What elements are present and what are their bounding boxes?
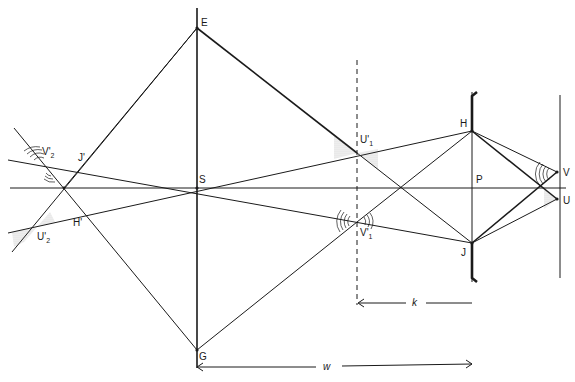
- label-u: U: [563, 195, 570, 206]
- line-v1-h: [357, 131, 472, 222]
- label-k: k: [412, 297, 418, 308]
- point-s: [195, 186, 198, 189]
- line-e-h: [197, 28, 357, 153]
- label-g: G: [199, 351, 207, 362]
- point-j: [470, 241, 473, 244]
- lens-lower-segment: [472, 243, 477, 282]
- line-g-v1: [197, 222, 357, 350]
- line-left-diagonal-b: [12, 28, 197, 252]
- point-h: [470, 129, 473, 132]
- arcs-v: [535, 162, 549, 186]
- stipple-u1-right: [357, 149, 378, 170]
- label-s: S: [199, 174, 206, 185]
- label-v1-prime: V'1: [360, 227, 373, 240]
- lens-upper-segment: [472, 92, 477, 131]
- label-u1-prime: U'1: [360, 134, 373, 147]
- label-h-prime: H': [73, 217, 82, 228]
- dimension-w: [197, 360, 472, 371]
- label-h: H: [460, 118, 467, 129]
- label-j: J: [461, 247, 466, 258]
- label-v: V: [563, 167, 570, 178]
- label-w: w: [323, 361, 331, 372]
- label-e: E: [201, 17, 208, 28]
- label-v2-prime: V'2: [42, 146, 55, 159]
- point-left-cross: [63, 187, 66, 190]
- stipple-u2-left: [12, 227, 37, 247]
- point-e: [195, 26, 198, 29]
- label-p: P: [476, 174, 483, 185]
- point-v: [555, 170, 558, 173]
- label-u2-prime: U'2: [37, 231, 50, 244]
- optics-diagram: k w E S G H J P V U J' H' U'1 V'1 V'2 U'…: [0, 0, 575, 382]
- label-j-prime: J': [78, 152, 85, 163]
- stipple-u-angle: [544, 188, 557, 209]
- stipple-u1-left: [334, 135, 357, 159]
